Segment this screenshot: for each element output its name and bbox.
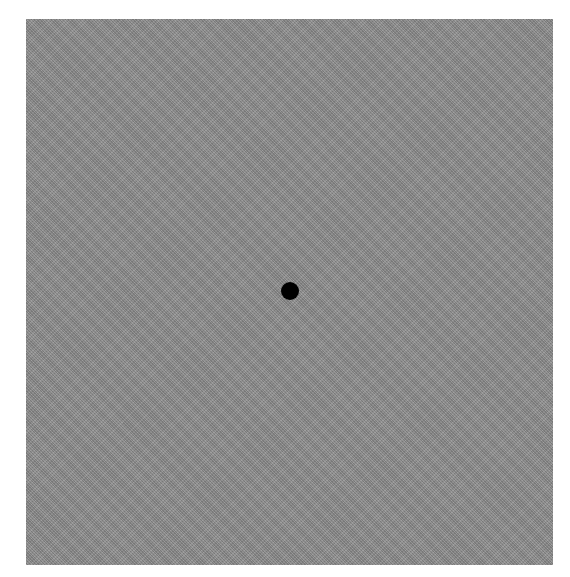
stimulus-canvas	[0, 0, 570, 577]
fixation-dot	[281, 282, 299, 300]
